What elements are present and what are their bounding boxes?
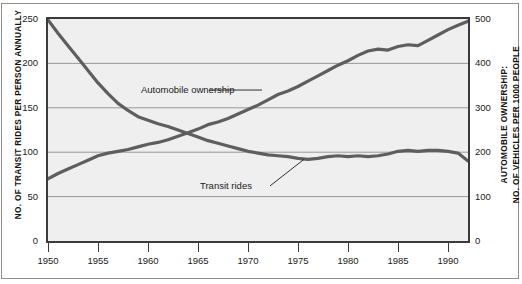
x-axis-tick-label: 1950 (28, 255, 68, 266)
x-axis-tick-label: 1955 (78, 255, 118, 266)
series-lines (48, 20, 468, 179)
x-axis-tick-mark (348, 243, 349, 252)
y-axis-left-tick-label: 250 (2, 13, 38, 24)
series-line-automobile-ownership (48, 21, 468, 179)
y-axis-left-tick-label: 200 (2, 57, 38, 68)
plot-area (46, 17, 470, 243)
series-label-transit-rides: Transit rides (200, 180, 252, 191)
x-axis-tick-mark (248, 243, 249, 252)
x-axis-tick-label: 1975 (278, 255, 318, 266)
x-axis-tick-label: 1990 (428, 255, 468, 266)
series-label-automobile-ownership: Automobile ownership (141, 84, 234, 95)
chart-figure: No. of Transit Rides per Person Annually… (0, 0, 522, 284)
x-axis-tick-label: 1980 (328, 255, 368, 266)
annotation-leader-line (270, 159, 304, 186)
y-axis-right-title-line2: No. of Vehicles per 1000 People (512, 35, 521, 215)
y-axis-right-tick-label: 200 (475, 146, 511, 157)
x-axis-tick-mark (98, 243, 99, 252)
x-axis-tick-label: 1965 (178, 255, 218, 266)
y-axis-right-tick-label: 500 (475, 13, 511, 24)
x-axis-tick-mark (198, 243, 199, 252)
y-axis-left-tick-label: 0 (2, 235, 38, 246)
x-axis-tick-mark (448, 243, 449, 252)
x-axis-tick-label: 1970 (228, 255, 268, 266)
x-axis-tick-mark (298, 243, 299, 252)
x-axis-tick-label: 1960 (128, 255, 168, 266)
y-axis-right-tick-label: 0 (475, 235, 511, 246)
y-axis-left-tick-label: 150 (2, 102, 38, 113)
y-axis-right-tick-label: 400 (475, 57, 511, 68)
y-axis-right-tick-label: 300 (475, 102, 511, 113)
gridlines (48, 63, 468, 196)
x-axis-tick-mark (398, 243, 399, 252)
x-axis-tick-mark (48, 243, 49, 252)
y-axis-left-tick-label: 100 (2, 146, 38, 157)
plot-svg (48, 19, 468, 241)
x-axis-tick-label: 1985 (378, 255, 418, 266)
y-axis-left-tick-label: 50 (2, 191, 38, 202)
x-axis-tick-mark (148, 243, 149, 252)
y-axis-right-tick-label: 100 (475, 191, 511, 202)
